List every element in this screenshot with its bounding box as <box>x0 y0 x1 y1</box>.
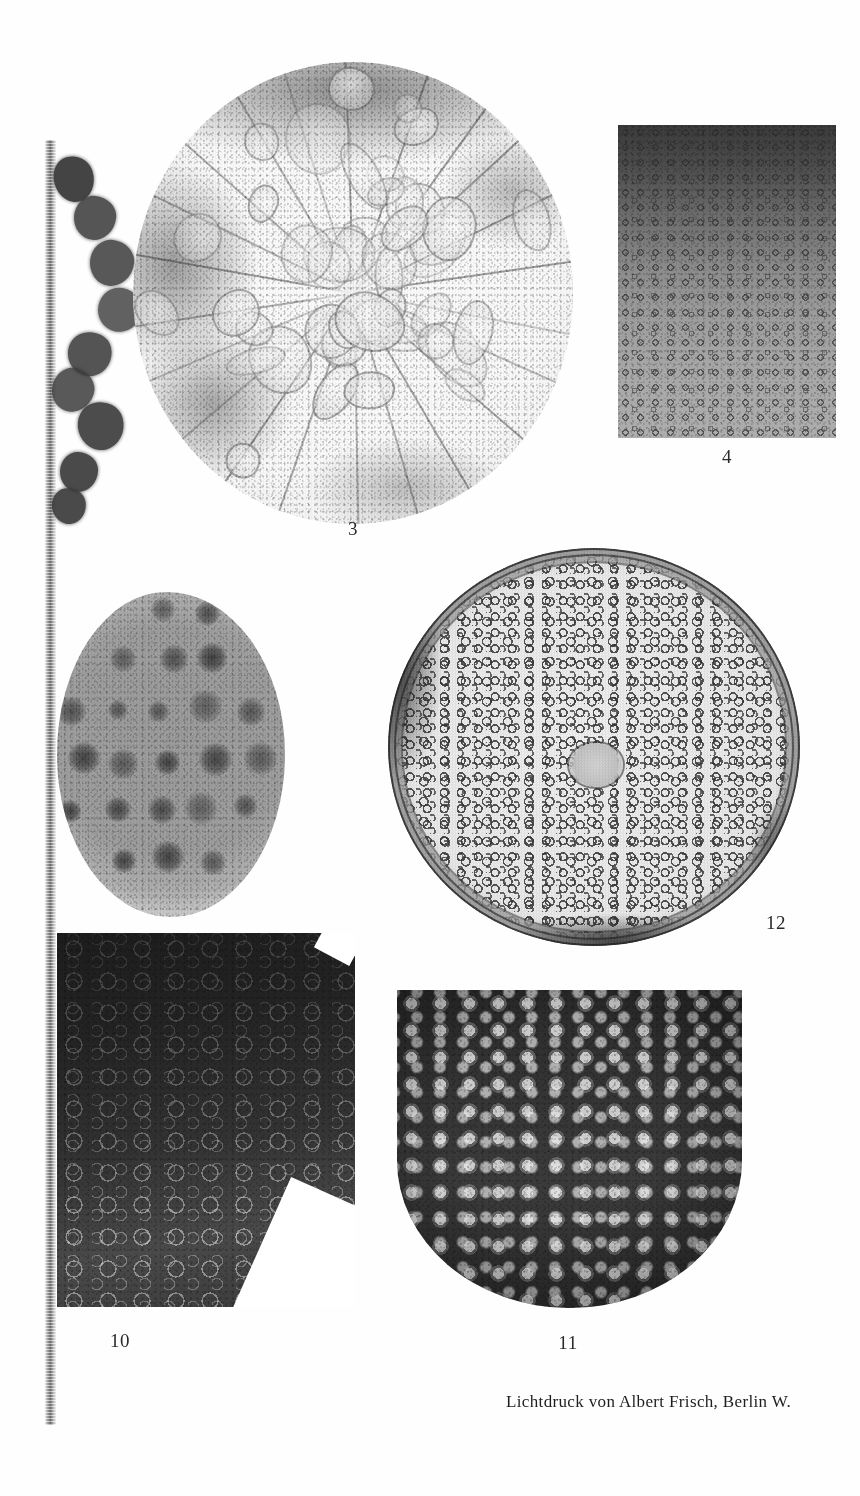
figure-10-caption: 10 <box>100 1330 140 1352</box>
figure-3-fine-grain <box>133 62 573 524</box>
figure-3 <box>133 62 573 524</box>
figure-10 <box>57 933 355 1307</box>
figure-4-caption: 4 <box>707 446 747 468</box>
figure-spotted-disc <box>57 592 285 917</box>
figure-11 <box>397 990 742 1308</box>
figure-3-disc <box>133 62 573 524</box>
figure-3-caption: 3 <box>333 518 373 540</box>
dark-blob <box>72 194 118 241</box>
figure-4 <box>618 125 836 438</box>
figure-4-grain <box>618 125 836 438</box>
plate-edge-strip <box>45 140 56 1425</box>
figure-11-caption: 11 <box>548 1332 588 1354</box>
figure-spotted-disc-field <box>57 592 285 917</box>
dark-blob <box>87 238 136 289</box>
figure-11-vignette <box>397 990 742 1308</box>
dark-blob <box>59 451 99 492</box>
printer-credit-line: Lichtdruck von Albert Frisch, Berlin W. <box>506 1392 791 1412</box>
figure-10-field <box>57 933 355 1307</box>
figure-11-field <box>397 990 742 1308</box>
figure-12 <box>388 548 800 946</box>
figure-spotted-fine-grain <box>57 592 285 917</box>
figure-12-fine-grain <box>388 548 800 946</box>
figure-4-field <box>618 125 836 438</box>
figure-12-disc <box>388 548 800 946</box>
plate-page: 3 4 12 10 <box>0 0 860 1496</box>
figure-12-caption: 12 <box>756 912 796 934</box>
